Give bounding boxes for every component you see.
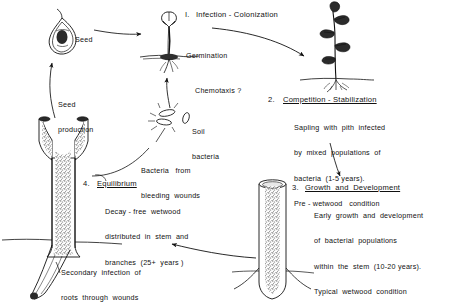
stage2-number: 2. [268, 96, 275, 105]
leader-secondary-infection [56, 262, 60, 273]
arrow-chemotaxis [167, 78, 170, 108]
wetwood-cycle-diagram: I. Infection - Colonization Germination … [0, 0, 453, 304]
germination-label: Germination [186, 52, 227, 60]
arrow-seed-to-seedling [94, 30, 141, 34]
seed-label: Seed [75, 36, 93, 44]
stage3-body: Early growth and development of bacteria… [314, 195, 423, 304]
stage1-heading: Infection - Colonization [196, 11, 278, 20]
arrow-seed-production [50, 63, 55, 118]
soil-bacteria-drawing [148, 103, 191, 132]
chemotaxis-label: Chemotaxis ? [195, 87, 241, 95]
stage3-heading: Growth and Development [305, 184, 400, 193]
sapling-drawing [300, 2, 374, 92]
seed-drawing [49, 9, 76, 54]
stage1-number: I. [185, 11, 190, 20]
stage4-heading: Equilibrium [97, 180, 137, 189]
stage2-heading: Competition - Stabilization [283, 96, 377, 105]
seedling-drawing [140, 12, 199, 73]
stage3-number: 3. [292, 184, 299, 193]
stage4-number: 4. [83, 180, 90, 189]
secondary-infection-label: Secondary infection of roots through wou… [61, 252, 141, 304]
leader-bacteria-wounds [156, 128, 165, 142]
seed-production-label: Seed production [58, 84, 94, 152]
